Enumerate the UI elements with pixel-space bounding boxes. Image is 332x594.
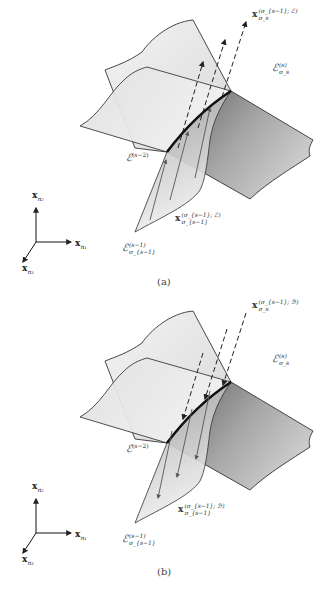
label-b-right-surface: ℰ(s)σ_s <box>272 353 289 366</box>
diagram-canvas <box>0 0 332 594</box>
label-a-right-surface: ℰ(s)σ_s <box>272 62 289 75</box>
axis-a-n3-label: xn₃ <box>22 263 34 275</box>
axis-b-n3-label: xn₃ <box>22 554 34 566</box>
label-b-bottom-surface: ℰ(s−1)σ_{s−1} <box>122 533 156 546</box>
axis-a-n1-label: xn₁ <box>75 238 87 250</box>
caption-b: (b) <box>157 566 171 577</box>
label-a-top-vector: x(σ_{s−1}; ℰ)σ_s <box>252 8 298 21</box>
label-a-bottom-surface: ℰ(s−1)σ_{s−1} <box>122 242 156 255</box>
axis-b-n2-label: xn₂ <box>32 481 44 493</box>
label-b-crease: ℰ(s−2) <box>126 443 149 454</box>
caption-a: (a) <box>157 276 171 287</box>
axis-a-n2-label: xn₂ <box>32 190 44 202</box>
label-b-bottom-vector: x(σ_{s−1}; ℬ)σ_{s−1} <box>178 503 225 516</box>
axis-b-n1-label: xn₁ <box>75 529 87 541</box>
panel-a <box>23 20 313 262</box>
panel-b <box>23 311 313 553</box>
label-b-top-vector: x(σ_{s−1}; ℬ)σ_s <box>252 299 299 312</box>
label-a-bottom-vector: x(σ_{s−1}; ℰ)σ_{s−1} <box>175 212 221 225</box>
label-a-crease: ℰ(s−2) <box>126 152 149 163</box>
